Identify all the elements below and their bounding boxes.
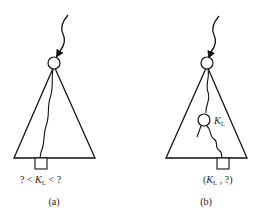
incoming-search-arrow-icon [57,15,68,56]
incoming-search-arrow-icon [209,16,219,57]
diagram-b: KL (KL , ?) (b) [166,16,247,208]
search-path-lower [207,126,222,158]
node-label-kl: KL [213,115,225,128]
root-node [201,57,213,69]
diagram-a: ? < KL < ? (a) [14,15,95,208]
search-tree-figure: ? < KL < ? (a) KL (KL , ?) (b) [0,0,259,215]
leaf-label-b: (KL , ?) [203,174,233,187]
subtree-triangle [14,66,95,158]
left-branch [197,126,201,137]
search-path-upper [206,69,209,113]
root-node [48,57,60,69]
subtree-triangle [166,66,247,158]
internal-node-kl [198,114,210,126]
caption-a: (a) [48,196,59,208]
leaf-node [35,158,47,169]
leaf-label-a: ? < KL < ? [20,174,62,187]
caption-b: (b) [200,196,212,208]
leaf-node [217,158,229,169]
